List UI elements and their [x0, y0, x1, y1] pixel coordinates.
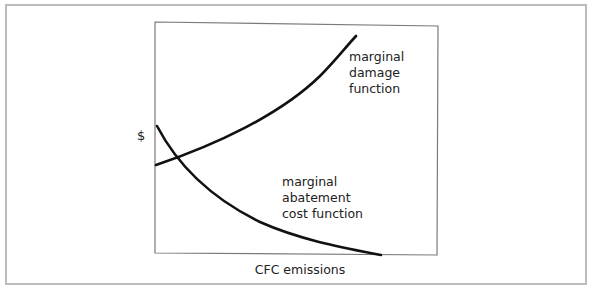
marginal-damage-curve [156, 36, 356, 165]
marginal-abatement-cost-label: marginal abatement cost function [282, 174, 363, 222]
md-label-line: damage [349, 65, 404, 81]
marginal-damage-label: marginal damage function [349, 49, 404, 97]
chart-canvas [0, 0, 598, 302]
mac-label-line: cost function [282, 206, 363, 222]
mac-label-line: abatement [282, 190, 363, 206]
y-axis-label: $ [137, 128, 145, 144]
md-label-line: marginal [349, 49, 404, 65]
mac-label-line: marginal [282, 174, 363, 190]
md-label-line: function [349, 81, 404, 97]
x-axis-label: CFC emissions [0, 262, 598, 278]
